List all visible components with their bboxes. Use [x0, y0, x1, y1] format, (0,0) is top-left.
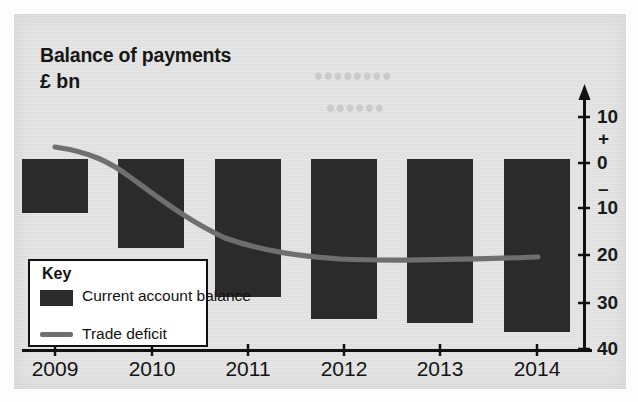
legend-title: Key	[42, 265, 71, 283]
y-tick-label-neg40: 40	[597, 338, 618, 360]
chart-legend: Key Current account balance Trade defici…	[28, 259, 208, 347]
x-tick-label-2013: 2013	[400, 357, 480, 381]
y-tick-label-zero: 0	[597, 152, 608, 174]
x-tick-label-2014: 2014	[497, 357, 577, 381]
y-axis-arrow-icon	[579, 84, 591, 100]
bar-2013	[407, 159, 473, 323]
y-tick-label-pos10: 10	[597, 106, 618, 128]
chart-page: •••••••• •••••• Balance of payments £ bn	[0, 0, 638, 402]
y-tick-label-neg10: 10	[597, 197, 618, 219]
bar-2009	[22, 159, 88, 213]
legend-label-current-account-balance: Current account balance	[82, 287, 251, 305]
x-tick-label-2011: 2011	[208, 357, 288, 381]
bar-2012	[311, 159, 377, 319]
bar-2011	[215, 159, 281, 297]
y-axis-positive-sign: +	[598, 128, 609, 150]
x-tick-label-2009: 2009	[15, 357, 95, 381]
x-tick-label-2012: 2012	[304, 357, 384, 381]
legend-label-trade-deficit: Trade deficit	[82, 325, 167, 343]
bar-2014	[504, 159, 570, 332]
x-tick-label-2010: 2010	[112, 357, 192, 381]
y-tick-label-neg20: 20	[597, 244, 618, 266]
legend-bar-swatch-icon	[40, 290, 73, 306]
y-tick-label-neg30: 30	[597, 292, 618, 314]
legend-line-swatch-icon	[40, 332, 73, 337]
